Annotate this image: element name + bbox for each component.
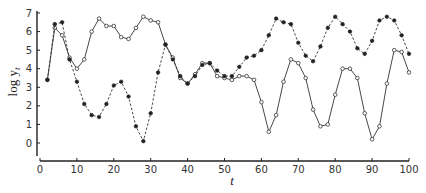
filled-point-marker (142, 139, 146, 143)
open-point-marker (75, 67, 79, 71)
filled-point-marker (171, 58, 175, 62)
svg-text:log yt: log yt (5, 67, 22, 96)
filled-point-marker (105, 102, 109, 106)
open-point-marker (385, 82, 389, 86)
filled-point-marker (326, 26, 330, 30)
open-point-marker (260, 100, 264, 104)
filled-point-marker (178, 74, 182, 78)
filled-point-marker (400, 33, 404, 37)
open-point-marker (326, 123, 330, 127)
open-point-marker (378, 124, 382, 128)
filled-point-marker (267, 33, 271, 37)
y-tick-label: 3 (26, 82, 32, 93)
filled-point-marker (370, 39, 374, 43)
filled-point-marker (208, 61, 212, 65)
filled-point-marker (289, 22, 293, 26)
open-point-marker (105, 24, 109, 28)
open-point-marker (407, 71, 411, 75)
filled-point-marker (252, 54, 256, 58)
filled-point-marker (53, 22, 57, 26)
filled-point-marker (215, 69, 219, 73)
open-point-marker (348, 67, 352, 71)
filled-point-marker (156, 71, 160, 75)
filled-point-marker (245, 56, 249, 60)
filled-point-marker (363, 52, 367, 56)
open-point-marker (134, 26, 138, 30)
filled-point-marker (333, 15, 337, 19)
open-point-marker (341, 67, 345, 71)
y-tick-label: 0 (26, 138, 32, 149)
filled-point-marker (260, 48, 264, 52)
open-point-marker (274, 113, 278, 117)
time-series-chart: 012345670102030405060708090100 t log yt (0, 0, 426, 193)
filled-point-marker (97, 115, 101, 119)
open-point-marker (370, 137, 374, 141)
open-point-marker (282, 80, 286, 84)
series-open-markers (46, 15, 411, 141)
filled-point-marker (82, 102, 86, 106)
filled-point-marker (311, 59, 315, 63)
y-axis-title: log yt (5, 67, 22, 96)
filled-point-marker (75, 80, 79, 84)
open-point-marker (392, 48, 396, 52)
y-tick-label: 5 (26, 45, 32, 56)
y-axis-title-subscript: t (12, 67, 22, 70)
filled-point-marker (193, 74, 197, 78)
filled-point-marker (230, 74, 234, 78)
x-tick-label: 30 (144, 164, 157, 175)
filled-point-marker (282, 20, 286, 24)
filled-point-marker (341, 22, 345, 26)
open-point-marker (245, 74, 249, 78)
open-point-marker (304, 76, 308, 80)
y-tick-label: 1 (26, 119, 32, 130)
filled-point-marker (164, 43, 168, 47)
filled-point-marker (134, 124, 138, 128)
y-tick-label: 4 (26, 63, 32, 74)
filled-point-marker (119, 80, 123, 84)
x-tick-label: 20 (107, 164, 120, 175)
filled-point-marker (149, 111, 153, 115)
x-tick-label: 80 (329, 164, 342, 175)
filled-point-marker (46, 78, 50, 82)
open-point-marker (237, 74, 241, 78)
y-tick-label: 2 (26, 100, 32, 111)
filled-point-marker (392, 19, 396, 23)
open-point-marker (267, 130, 271, 134)
open-point-marker (119, 35, 123, 39)
open-point-marker (363, 111, 367, 115)
solid-line (47, 17, 409, 140)
x-tick-label: 0 (37, 164, 43, 175)
x-tick-label: 40 (181, 164, 194, 175)
filled-point-marker (90, 113, 94, 117)
filled-point-marker (186, 82, 190, 86)
open-point-marker (90, 30, 94, 34)
filled-point-marker (356, 46, 360, 50)
filled-point-marker (237, 65, 241, 69)
open-point-marker (400, 50, 404, 54)
open-point-marker (82, 58, 86, 62)
filled-point-marker (201, 63, 205, 67)
filled-point-marker (223, 74, 227, 78)
open-point-marker (142, 15, 146, 19)
open-point-marker (127, 37, 131, 41)
filled-point-marker (385, 15, 389, 19)
x-tick-label: 100 (399, 164, 418, 175)
open-point-marker (149, 19, 153, 23)
x-axis-title: t (230, 173, 234, 188)
filled-point-marker (274, 17, 278, 21)
filled-point-marker (297, 41, 301, 45)
open-point-marker (230, 78, 234, 82)
filled-point-marker (60, 20, 64, 24)
axes: 012345670102030405060708090100 (26, 8, 419, 176)
filled-point-marker (304, 54, 308, 58)
y-axis-title-main: log y (5, 70, 20, 97)
x-tick-label: 90 (366, 164, 379, 175)
open-point-marker (112, 24, 116, 28)
open-point-marker (97, 17, 101, 21)
open-point-marker (311, 108, 315, 112)
open-point-marker (319, 124, 323, 128)
filled-point-marker (407, 52, 411, 56)
open-point-marker (333, 93, 337, 97)
y-tick-label: 6 (26, 26, 32, 37)
open-point-marker (60, 33, 64, 37)
